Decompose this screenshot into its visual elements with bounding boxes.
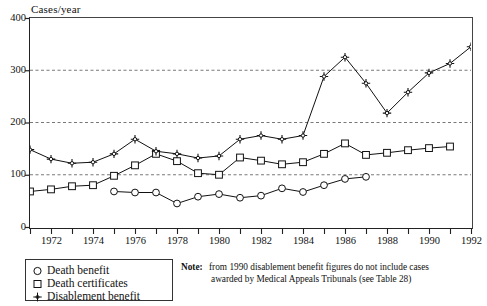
chart-legend: Death benefit Death certificates Disable… bbox=[25, 259, 173, 301]
note-line-1: from 1990 disablement benefit figures do… bbox=[205, 262, 429, 272]
legend-item-disablement-benefit: Disablement benefit bbox=[31, 289, 166, 302]
cross-marker-icon bbox=[31, 289, 44, 302]
note-prefix: Note: bbox=[181, 262, 203, 272]
legend-item-death-benefit: Death benefit bbox=[31, 263, 166, 276]
legend-item-death-certificates: Death certificates bbox=[31, 276, 166, 289]
chart-note: Note: from 1990 disablement benefit figu… bbox=[181, 262, 481, 285]
legend-label: Disablement benefit bbox=[44, 290, 140, 302]
note-line-2: awarded by Medical Appeals Tribunals (se… bbox=[181, 274, 481, 286]
legend-label: Death benefit bbox=[44, 264, 109, 276]
circle-marker-icon bbox=[31, 263, 44, 276]
legend-label: Death certificates bbox=[44, 277, 128, 289]
square-marker-icon bbox=[31, 276, 44, 289]
